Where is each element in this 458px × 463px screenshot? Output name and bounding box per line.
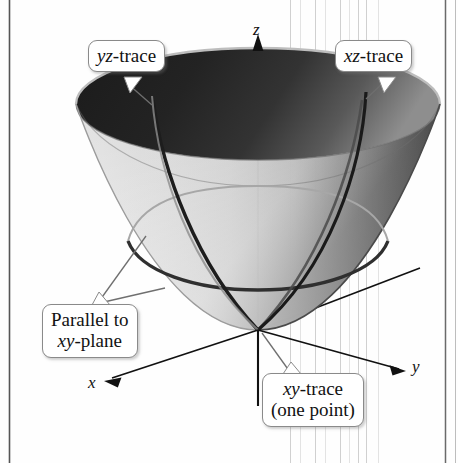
callout-xz-trace-rest: -trace: [360, 45, 403, 66]
x-axis-arrowhead: [104, 378, 122, 388]
y-axis-label: y: [412, 358, 420, 375]
callout-xz-trace: xz-trace: [335, 40, 412, 72]
paraboloid-figure: z y x yz-trace xz-trace Parallel to xy-p…: [0, 0, 458, 463]
callout-yz-trace: yz-trace: [88, 40, 165, 72]
callout-xy-trace-line2: (one point): [271, 399, 355, 420]
callout-xz-trace-italic: xz: [344, 45, 360, 66]
leader-xy-trace: [262, 333, 290, 372]
y-axis-arrowhead: [390, 365, 407, 375]
callout-parallel-line1: Parallel to: [51, 309, 129, 330]
callout-yz-trace-italic: yz: [97, 45, 113, 66]
leader-parallel-xy-upper: [100, 236, 146, 300]
callout-xy-trace: xy-trace (one point): [262, 373, 364, 427]
z-axis-label: z: [253, 21, 260, 38]
callout-parallel-xy-plane: Parallel to xy-plane: [42, 304, 138, 358]
y-axis: [258, 330, 399, 369]
callout-parallel-line2-italic: xy: [58, 330, 75, 351]
callout-xy-trace-italic: xy: [283, 378, 300, 399]
callout-xy-trace-rest: -trace: [300, 378, 343, 399]
leader-parallel-xy-lower: [104, 288, 165, 302]
x-axis-label: x: [88, 374, 96, 391]
callout-yz-trace-rest: -trace: [113, 45, 156, 66]
callout-parallel-line2-rest: -plane: [74, 330, 121, 351]
